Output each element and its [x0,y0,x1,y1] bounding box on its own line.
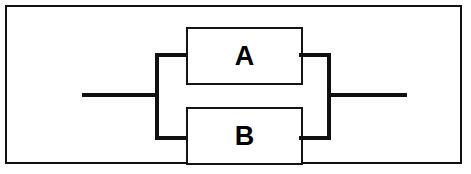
right-terminal-lead [327,93,407,97]
block-a: A [186,27,303,85]
left-parallel-bus [155,53,159,140]
figure-border: A B [5,5,462,164]
figure-root: A B [0,0,471,174]
left-branch-top-wire [155,53,189,57]
block-b-label: B [235,123,255,150]
block-a-label: A [235,43,255,70]
block-b: B [186,107,303,165]
left-branch-bottom-wire [155,136,189,140]
left-terminal-lead [82,93,159,97]
